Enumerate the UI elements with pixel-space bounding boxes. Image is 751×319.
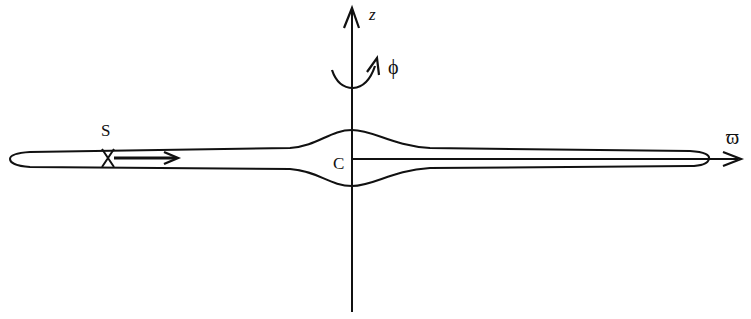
z-axis-label: z xyxy=(369,6,376,23)
radial-axis-label: ϖ xyxy=(726,127,739,147)
center-label: C xyxy=(333,155,344,172)
azimuth-label: ϕ xyxy=(388,57,399,77)
diagram-canvas: z ϕ S C ϖ xyxy=(0,0,751,319)
source-label: S xyxy=(101,122,110,139)
diagram-drawing xyxy=(0,0,751,319)
